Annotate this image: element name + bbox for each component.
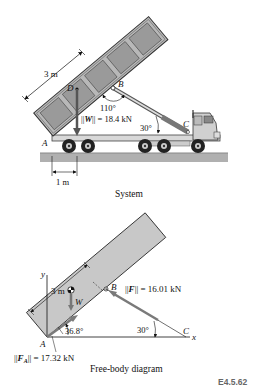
label-weight: ||W|| = 18.4 kN — [81, 114, 132, 124]
label-a: A — [41, 138, 48, 148]
fbd-figure: y x 3 m W B ||F|| = 16.01 kN 30° — [14, 213, 196, 374]
angle-arc-110 — [103, 95, 124, 101]
fbd-label-b: B — [111, 282, 117, 292]
center-of-mass-icon — [68, 287, 74, 293]
label-force-f: ||F|| = 16.01 kN — [125, 284, 182, 294]
caption-system: System — [115, 189, 144, 199]
ground — [40, 153, 228, 162]
fbd-angle-arc-30 — [154, 321, 155, 337]
label-b: B — [118, 79, 124, 89]
fbd-label-30: 30° — [137, 325, 149, 335]
label-x: x — [191, 332, 196, 342]
label-force-fa: ||FA|| = 17.32 kN — [14, 353, 75, 364]
label-c: C — [183, 119, 190, 129]
label-d: D — [66, 83, 74, 93]
truck-cab — [193, 110, 220, 140]
label-110: 110° — [100, 103, 116, 113]
fbd-label-3m: 3 m — [51, 286, 65, 296]
fbd-label-c: C — [183, 326, 190, 336]
label-30: 30° — [140, 123, 152, 133]
label-y: y — [40, 269, 45, 279]
figure-tag: E4.5.62 — [218, 377, 248, 387]
diagram-canvas: 3 m D B 110° ||W|| = 18.4 kN 30° C A 1 m… — [0, 0, 269, 388]
fbd-label-a: A — [39, 339, 46, 349]
pin-b — [111, 86, 115, 90]
label-1m: 1 m — [56, 177, 69, 187]
angle-arc-30 — [156, 116, 158, 133]
caption-fbd: Free-body diagram — [90, 364, 163, 374]
fbd-label-36: 36.8° — [65, 326, 83, 336]
system-figure: 3 m D B 110° ||W|| = 18.4 kN 30° C A 1 m… — [22, 17, 228, 199]
force-f-arrow — [114, 294, 158, 320]
label-3m: 3 m — [44, 69, 58, 79]
pin-c — [187, 131, 190, 134]
